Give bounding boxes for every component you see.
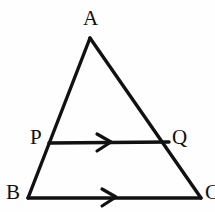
vertex-label-p: P <box>30 127 42 148</box>
vertex-label-q: Q <box>172 127 187 148</box>
vertex-label-a: A <box>83 8 98 29</box>
geometry-figure: A P Q B C <box>0 0 215 212</box>
triangle-diagram-svg <box>0 0 215 212</box>
figure-background <box>0 0 215 212</box>
vertex-label-b: B <box>6 182 20 203</box>
vertex-label-c: C <box>205 182 215 203</box>
